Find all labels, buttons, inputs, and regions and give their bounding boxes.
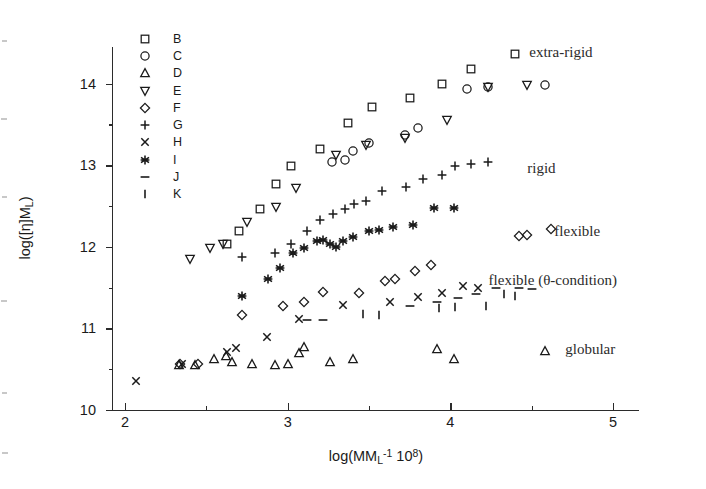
- data-point-E: [216, 237, 230, 251]
- legend-symbol-square-icon: [138, 32, 152, 46]
- data-point-I: [235, 289, 249, 303]
- data-point-I: [323, 237, 337, 251]
- region-annotation: rigid: [527, 160, 555, 177]
- data-point-F: [520, 228, 534, 242]
- x-axis-title-mid: 10: [392, 448, 412, 464]
- data-point-K: [497, 287, 511, 301]
- data-point-B: [403, 91, 417, 105]
- data-point-E: [269, 200, 283, 214]
- data-point-H: [471, 281, 485, 295]
- y-tick-major: [106, 247, 113, 248]
- data-point-K: [448, 300, 462, 314]
- data-point-I: [427, 201, 441, 215]
- data-point-B: [220, 237, 234, 251]
- data-point-D: [447, 352, 461, 366]
- x-axis-line: [112, 410, 639, 411]
- y-axis-title-pre: log([η]M: [17, 207, 33, 259]
- data-point-F: [297, 295, 311, 309]
- x-tick-label: 5: [609, 414, 617, 430]
- data-point-G: [300, 224, 314, 238]
- data-point-D: [346, 352, 360, 366]
- x-tick-minor: [532, 406, 533, 410]
- legend-label: C: [173, 50, 182, 63]
- data-point-I: [372, 223, 386, 237]
- data-point-F: [424, 258, 438, 272]
- data-point-G: [347, 197, 361, 211]
- y-tick-minor: [109, 288, 113, 289]
- data-point-I: [336, 234, 350, 248]
- y-tick-label: 10: [80, 402, 96, 418]
- data-point-B: [341, 116, 355, 130]
- data-point-F: [352, 286, 366, 300]
- data-point-D: [297, 340, 311, 354]
- data-point-K: [356, 307, 370, 321]
- data-point-B: [464, 62, 478, 76]
- data-point-E: [203, 241, 217, 255]
- data-point-E: [481, 80, 495, 94]
- legend-symbol-asterisk-icon: [138, 153, 152, 167]
- legend-symbol-circle-icon: [138, 49, 152, 63]
- data-point-C: [346, 144, 360, 158]
- data-point-D: [430, 342, 444, 356]
- legend-label: G: [173, 119, 183, 132]
- data-point-C: [338, 153, 352, 167]
- data-point-I: [386, 220, 400, 234]
- region-annotation: flexible (θ-condition): [489, 272, 617, 289]
- data-point-C: [411, 121, 425, 135]
- data-point-G: [326, 207, 340, 221]
- data-point-B: [269, 177, 283, 191]
- legend-label: B: [173, 32, 181, 45]
- data-point-F: [316, 285, 330, 299]
- data-point-I: [362, 224, 376, 238]
- data-point-B: [232, 224, 246, 238]
- data-point-I: [261, 272, 275, 286]
- x-tick-minor: [369, 406, 370, 410]
- data-point-E: [289, 181, 303, 195]
- data-point-G: [464, 157, 478, 171]
- data-point-G: [268, 246, 282, 260]
- legend-label: H: [173, 136, 182, 149]
- data-point-H: [411, 290, 425, 304]
- data-point-K: [508, 289, 522, 303]
- data-point-I: [447, 201, 461, 215]
- data-point-C: [538, 78, 552, 92]
- data-point-G: [416, 172, 430, 186]
- y-axis-line: [112, 47, 113, 411]
- data-point-D: [188, 358, 202, 372]
- data-point-C: [398, 128, 412, 142]
- legend-symbol-bar-icon: [138, 187, 152, 201]
- data-point-D: [268, 358, 282, 372]
- data-point-F: [388, 272, 402, 286]
- data-point-E: [240, 215, 254, 229]
- legend-symbol-diamond-icon: [138, 101, 152, 115]
- data-point-K: [479, 299, 493, 313]
- legend-symbol-triangle-up-icon: [138, 66, 152, 80]
- data-point-E: [440, 113, 454, 127]
- data-point-I: [286, 246, 300, 260]
- data-point-J: [403, 299, 417, 313]
- x-tick-label: 4: [446, 414, 454, 430]
- y-tick-label: 13: [80, 157, 96, 173]
- data-point-D: [207, 352, 221, 366]
- legend-label: E: [173, 84, 181, 97]
- y-axis-title-post: ): [17, 196, 33, 201]
- data-point-J: [469, 287, 483, 301]
- data-point-H: [456, 279, 470, 293]
- data-point-K: [372, 308, 386, 322]
- data-point-I: [346, 230, 360, 244]
- y-tick-major: [106, 84, 113, 85]
- legend-symbol-cross-icon: [138, 135, 152, 149]
- x-axis-title-post: ): [418, 448, 423, 464]
- y-tick-minor: [109, 124, 113, 125]
- region-annotation: extra-rigid: [529, 44, 592, 61]
- region-annotation: globular: [565, 341, 615, 358]
- data-point-I: [329, 240, 343, 254]
- data-point-B: [435, 77, 449, 91]
- data-point-H: [229, 341, 243, 355]
- data-point-H: [260, 330, 274, 344]
- data-point-J: [430, 295, 444, 309]
- data-point-I: [406, 218, 420, 232]
- data-point-J: [451, 291, 465, 305]
- data-point-C: [325, 155, 339, 169]
- y-tick-minor: [109, 369, 113, 370]
